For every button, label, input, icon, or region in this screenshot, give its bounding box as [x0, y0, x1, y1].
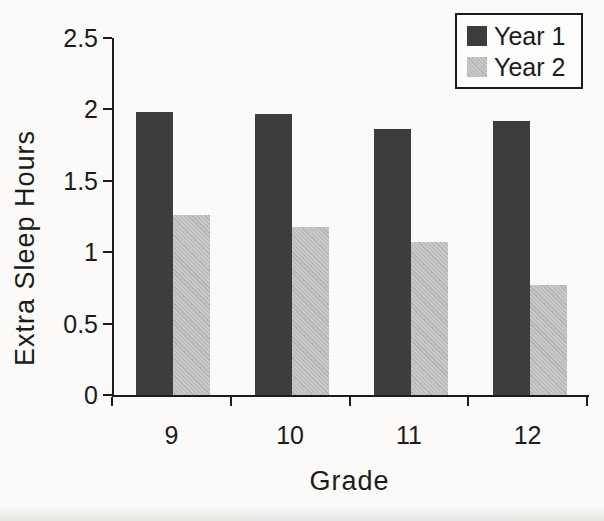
plot-area — [112, 38, 589, 397]
x-axis-tick — [467, 397, 469, 406]
y-axis-tick-label: 1.5 — [26, 165, 98, 197]
y-axis-tick — [103, 180, 112, 182]
y-axis-tick-label: 2.5 — [26, 22, 98, 54]
x-axis-tick-label: 9 — [131, 419, 211, 451]
x-axis-tick-label: 12 — [488, 419, 568, 451]
bar-year-2-grade-10 — [292, 227, 329, 396]
y-axis-tick-label: 1 — [26, 236, 98, 268]
bar-year-1-grade-9 — [136, 112, 173, 395]
y-axis-tick-label: 0 — [26, 379, 98, 411]
y-axis-tick — [103, 394, 112, 396]
x-axis-tick — [586, 397, 588, 406]
scan-artifact — [0, 505, 604, 521]
y-axis-tick — [103, 323, 112, 325]
legend-item-year-1: Year 1 — [467, 20, 581, 51]
bar-year-2-grade-11 — [411, 242, 448, 395]
x-axis-tick — [111, 397, 113, 406]
legend-label-year-2: Year 2 — [494, 53, 565, 81]
bar-chart-figure: Extra Sleep Hours Grade Year 1 Year 2 00… — [0, 0, 604, 521]
bar-year-2-grade-9 — [173, 215, 210, 395]
y-axis-tick-label: 2 — [26, 93, 98, 125]
y-axis-tick — [103, 108, 112, 110]
y-axis-tick-label: 0.5 — [26, 308, 98, 340]
x-axis-tick-label: 11 — [369, 419, 449, 451]
x-axis-title: Grade — [112, 464, 587, 498]
y-axis-tick — [103, 251, 112, 253]
bar-year-1-grade-12 — [493, 121, 530, 395]
bar-year-2-grade-12 — [530, 285, 567, 395]
x-axis-tick-label: 10 — [250, 419, 330, 451]
legend-swatch-year-1-icon — [467, 26, 487, 46]
legend-label-year-1: Year 1 — [494, 22, 565, 50]
bar-year-1-grade-11 — [374, 129, 411, 395]
legend-item-year-2: Year 2 — [467, 51, 581, 82]
x-axis-tick — [230, 397, 232, 406]
y-axis-tick — [103, 37, 112, 39]
legend-swatch-year-2-icon — [467, 57, 487, 77]
legend: Year 1 Year 2 — [455, 13, 583, 89]
bar-year-1-grade-10 — [255, 114, 292, 395]
x-axis-tick — [349, 397, 351, 406]
